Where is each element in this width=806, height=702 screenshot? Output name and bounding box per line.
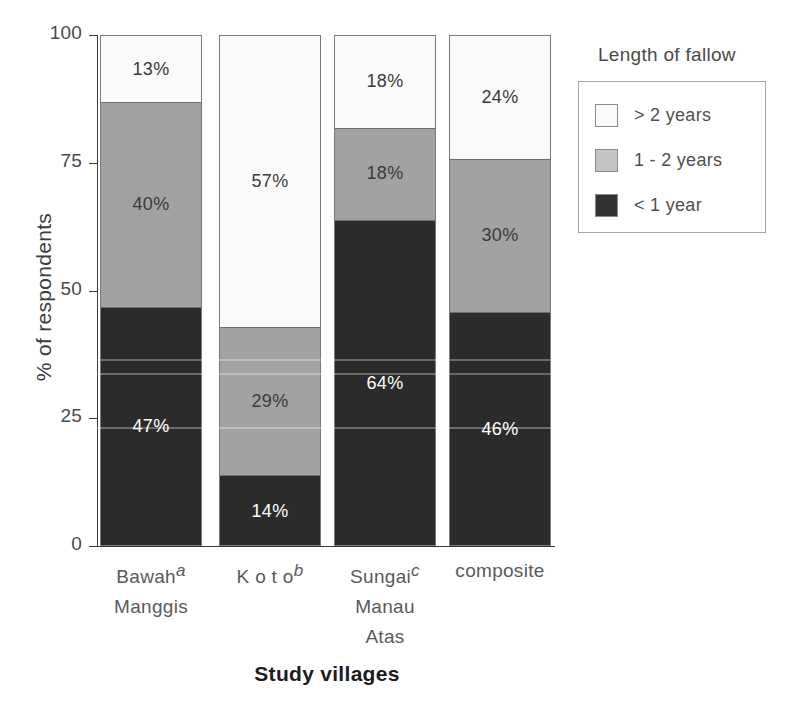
bar-segment-composite-one_to_two: 30%	[450, 159, 550, 312]
y-axis-title: % of respondents	[32, 147, 56, 447]
y-axis-tick-mark	[89, 35, 97, 36]
bar-segment-bawah-manggis-one_to_two: 40%	[101, 102, 201, 306]
bar-bawah-manggis: 13%40%47%	[100, 35, 202, 546]
bar-segment-composite-gt2: 24%	[450, 36, 550, 159]
y-axis-tick-mark	[89, 163, 97, 164]
x-label-line: Manggis	[86, 592, 216, 622]
legend-swatch-icon	[595, 149, 618, 172]
y-axis-line	[97, 35, 98, 546]
x-axis-label-sungai-manau-atas: SungaicManauAtas	[320, 556, 450, 652]
segment-value-label: 13%	[133, 59, 170, 80]
x-label-line: Manau	[320, 592, 450, 622]
bar-segment-composite-lt1: 46%	[450, 312, 550, 546]
segment-value-label: 29%	[252, 391, 289, 412]
segment-value-label: 46%	[482, 419, 519, 440]
segment-divider	[101, 307, 201, 308]
x-label-line: Atas	[320, 622, 450, 652]
y-axis-tick-label: 100	[22, 22, 82, 44]
bar-sungai-manau-atas: 18%18%64%	[334, 35, 436, 546]
legend-title: Length of fallow	[598, 44, 736, 66]
segment-value-label: 14%	[252, 501, 289, 522]
segment-divider	[101, 102, 201, 103]
bar-segment-sungai-manau-atas-one_to_two: 18%	[335, 128, 435, 220]
segment-divider	[335, 128, 435, 129]
legend-item-label: < 1 year	[634, 195, 702, 216]
x-label-text: K o t o	[237, 566, 294, 587]
x-label-text: Sungai	[350, 566, 411, 587]
segment-value-label: 18%	[367, 71, 404, 92]
x-label-line: Sungaic	[320, 556, 450, 592]
x-label-line: Bawaha	[86, 556, 216, 592]
x-label-footnote-marker: a	[176, 561, 186, 580]
x-axis-line	[89, 546, 555, 547]
segment-value-label: 64%	[367, 373, 404, 394]
segment-value-label: 18%	[367, 163, 404, 184]
segment-divider	[450, 312, 550, 313]
legend-swatch-icon	[595, 194, 618, 217]
x-axis-label-composite: composite	[435, 556, 565, 586]
x-axis-label-bawah-manggis: BawahaManggis	[86, 556, 216, 622]
segment-divider	[450, 159, 550, 160]
bar-composite: 24%30%46%	[449, 35, 551, 546]
bar-segment-koto-lt1: 14%	[220, 475, 320, 546]
segment-divider	[335, 220, 435, 221]
segment-value-label: 24%	[482, 87, 519, 108]
bar-segment-koto-gt2: 57%	[220, 36, 320, 327]
bar-segment-bawah-manggis-gt2: 13%	[101, 36, 201, 102]
segment-value-label: 30%	[482, 225, 519, 246]
bar-koto: 57%29%14%	[219, 35, 321, 546]
x-label-line: composite	[435, 556, 565, 586]
legend-item-dark[interactable]: < 1 year	[595, 194, 702, 217]
x-label-footnote-marker: b	[294, 561, 304, 580]
segment-value-label: 40%	[133, 194, 170, 215]
bar-segment-bawah-manggis-lt1: 47%	[101, 307, 201, 546]
segment-divider	[220, 475, 320, 476]
x-label-footnote-marker: c	[411, 561, 420, 580]
y-axis-tick-mark	[89, 418, 97, 419]
legend-item-label: > 2 years	[634, 105, 711, 126]
x-axis-label-koto: K o t ob	[205, 556, 335, 592]
y-axis-tick-label: 0	[22, 533, 82, 555]
segment-value-label: 57%	[252, 171, 289, 192]
segment-value-label: 47%	[133, 416, 170, 437]
legend-box: > 2 years1 - 2 years< 1 year	[578, 81, 766, 233]
stacked-bar-chart-figure: 1007550250 % of respondents Study villag…	[0, 0, 806, 702]
legend-item-light[interactable]: > 2 years	[595, 104, 711, 127]
legend-item-label: 1 - 2 years	[634, 150, 722, 171]
x-axis-title: Study villages	[97, 662, 557, 686]
x-label-text: composite	[455, 560, 544, 581]
bar-segment-sungai-manau-atas-gt2: 18%	[335, 36, 435, 128]
bar-segment-sungai-manau-atas-lt1: 64%	[335, 220, 435, 546]
x-label-line: K o t ob	[205, 556, 335, 592]
y-axis-tick-mark	[89, 291, 97, 292]
legend-swatch-icon	[595, 104, 618, 127]
segment-divider	[220, 327, 320, 328]
bar-segment-koto-one_to_two: 29%	[220, 327, 320, 475]
legend-item-mid[interactable]: 1 - 2 years	[595, 149, 722, 172]
x-label-text: Bawah	[116, 566, 176, 587]
